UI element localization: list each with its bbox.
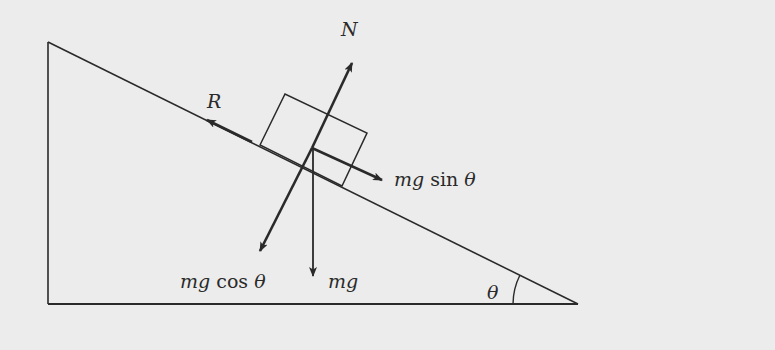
angle-arc <box>513 275 520 304</box>
normal-force-arrow <box>312 63 352 148</box>
label-mg-sin-theta-mg: mg <box>394 168 424 190</box>
label-mg-cos-theta-angle: θ <box>254 270 265 292</box>
label-mg-cos-theta-fn: cos <box>216 270 248 292</box>
diagram-canvas: N R mg sin θ mg cos θ mg θ <box>0 0 775 350</box>
mg-cos-theta-arrow <box>260 148 312 251</box>
label-normal-force: N <box>341 20 358 39</box>
label-mg-sin-theta-angle: θ <box>464 168 475 190</box>
label-angle-theta: θ <box>487 283 498 302</box>
label-mg-sin-theta-fn: sin <box>430 168 458 190</box>
label-mg-cos-theta-mg: mg <box>180 270 210 292</box>
label-mg-cos-theta: mg cos θ <box>180 272 266 291</box>
inclined-plane-diagram <box>0 0 775 350</box>
friction-arrow <box>207 120 252 142</box>
label-friction: R <box>207 92 221 111</box>
label-mg-sin-theta: mg sin θ <box>394 170 476 189</box>
label-weight: mg <box>328 272 358 291</box>
